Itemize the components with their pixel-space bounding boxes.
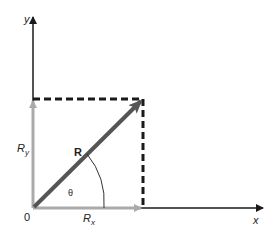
y-axis-label: y — [24, 14, 30, 25]
vector-diagram — [0, 0, 279, 229]
vector-r-label: R — [74, 147, 82, 158]
ry-sub: y — [25, 148, 29, 157]
rx-sub: x — [91, 218, 95, 227]
origin-label: 0 — [24, 212, 30, 223]
x-axis-label: x — [253, 215, 259, 226]
ry-main: R — [17, 142, 25, 154]
rx-main: R — [83, 212, 91, 224]
angle-theta-label: θ — [68, 189, 73, 198]
rx-label: Rx — [83, 213, 95, 224]
angle-arc — [87, 154, 104, 208]
ry-label: Ry — [17, 143, 29, 154]
